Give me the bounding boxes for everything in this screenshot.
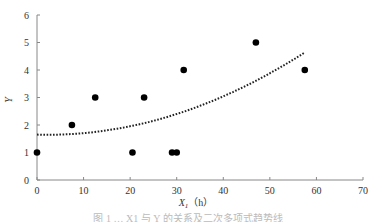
data-point <box>180 67 187 74</box>
y-tick-label: 4 <box>24 65 29 76</box>
y-tick-label: 3 <box>24 92 29 103</box>
data-point <box>141 94 148 101</box>
data-points <box>34 39 308 156</box>
y-tick-label: 6 <box>24 10 29 21</box>
x-axis-title: X1（h） <box>178 197 214 210</box>
scatter-chart: 0123456 010203040506070 Y X1（h） <box>0 0 376 222</box>
x-tick-label: 0 <box>35 185 40 196</box>
data-point <box>301 67 308 74</box>
y-tick-label: 1 <box>24 147 29 158</box>
data-point <box>69 122 76 129</box>
x-tick-label: 70 <box>358 185 368 196</box>
data-point <box>129 149 136 156</box>
y-tick-label: 5 <box>24 37 29 48</box>
x-tick-label: 60 <box>311 185 321 196</box>
data-point <box>92 94 99 101</box>
x-axis: 010203040506070 <box>35 177 369 196</box>
data-point <box>253 39 260 46</box>
y-axis: 0123456 <box>24 10 40 186</box>
data-point <box>173 149 180 156</box>
x-tick-label: 10 <box>79 185 89 196</box>
figure-caption: 图 1 … X1 与 Y 的关系及二次多项式趋势线 <box>0 210 376 222</box>
x-tick-label: 50 <box>265 185 275 196</box>
y-tick-label: 0 <box>24 175 29 186</box>
trend-line <box>37 53 305 135</box>
x-tick-label: 30 <box>172 185 182 196</box>
y-axis-title: Y <box>3 96 14 103</box>
data-point <box>34 149 41 156</box>
x-tick-label: 20 <box>125 185 135 196</box>
x-tick-label: 40 <box>218 185 228 196</box>
y-tick-label: 2 <box>24 120 29 131</box>
